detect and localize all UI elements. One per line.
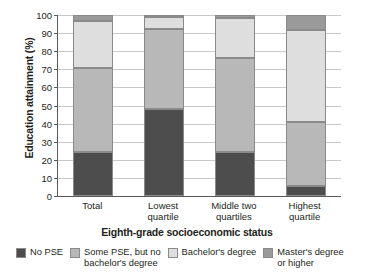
bar-stack[interactable] [215, 15, 255, 196]
bar-segment[interactable] [73, 152, 113, 196]
x-axis-category-label: Highest quartile [262, 200, 348, 222]
bar-segment[interactable] [144, 29, 184, 110]
stacked-bar-chart-figure: Education attainment (%) 010203040506070… [0, 0, 374, 279]
y-axis-title: Education attainment (%) [23, 8, 35, 188]
y-axis-tick-mark [54, 178, 58, 179]
gridline [58, 196, 341, 197]
y-axis-tick-label: 70 [41, 64, 52, 75]
bar-segment[interactable] [144, 15, 184, 17]
bar-segment[interactable] [286, 15, 326, 30]
bar-segment[interactable] [215, 58, 255, 152]
y-axis-tick-mark [54, 51, 58, 52]
legend-item[interactable]: No PSE [16, 247, 63, 258]
bar-segment[interactable] [73, 68, 113, 151]
y-axis-tick-mark [54, 106, 58, 107]
y-axis-tick-mark [54, 196, 58, 197]
legend-label: Bachelor's degree [182, 247, 257, 258]
bar-segment[interactable] [286, 122, 326, 186]
y-axis-tick-label: 10 [41, 172, 52, 183]
y-axis-tick-label: 80 [41, 46, 52, 57]
legend-swatch-icon [168, 248, 178, 258]
bar-segment[interactable] [144, 109, 184, 196]
y-axis-tick-label: 40 [41, 118, 52, 129]
bar-segment[interactable] [215, 18, 255, 58]
chart-legend: No PSESome PSE, but no bachelor's degree… [16, 247, 366, 268]
bar-stack[interactable] [144, 15, 184, 196]
y-axis-tick-mark [54, 124, 58, 125]
legend-swatch-icon [263, 248, 273, 258]
bar-segment[interactable] [215, 152, 255, 196]
bar-segment[interactable] [286, 186, 326, 196]
plot-area: 0102030405060708090100 [57, 15, 340, 196]
legend-swatch-icon [16, 248, 26, 258]
legend-label: Master's degree or higher [277, 247, 343, 268]
y-axis-tick-mark [54, 69, 58, 70]
y-axis-tick-label: 30 [41, 136, 52, 147]
legend-item[interactable]: Bachelor's degree [168, 247, 257, 258]
y-axis-tick-mark [54, 15, 58, 16]
bar-segment[interactable] [215, 15, 255, 18]
y-axis-tick-mark [54, 160, 58, 161]
bar-segment[interactable] [286, 30, 326, 121]
y-axis-tick-label: 20 [41, 154, 52, 165]
legend-item[interactable]: Master's degree or higher [263, 247, 343, 268]
bar-stack[interactable] [73, 15, 113, 196]
bar-segment[interactable] [73, 15, 113, 21]
bar-segment[interactable] [73, 21, 113, 68]
y-axis-tick-label: 100 [36, 10, 52, 21]
legend-label: No PSE [30, 247, 63, 258]
bar-stack[interactable] [286, 15, 326, 196]
y-axis-tick-label: 60 [41, 82, 52, 93]
bar-segment[interactable] [144, 17, 184, 29]
legend-item[interactable]: Some PSE, but no bachelor's degree [70, 247, 161, 268]
y-axis-tick-mark [54, 142, 58, 143]
x-axis-title: Eighth-grade socioeconomic status [0, 226, 374, 238]
y-axis-tick-label: 90 [41, 28, 52, 39]
y-axis-tick-label: 50 [41, 100, 52, 111]
legend-label: Some PSE, but no bachelor's degree [84, 247, 161, 268]
legend-swatch-icon [70, 248, 80, 258]
y-axis-tick-mark [54, 87, 58, 88]
y-axis-tick-mark [54, 33, 58, 34]
